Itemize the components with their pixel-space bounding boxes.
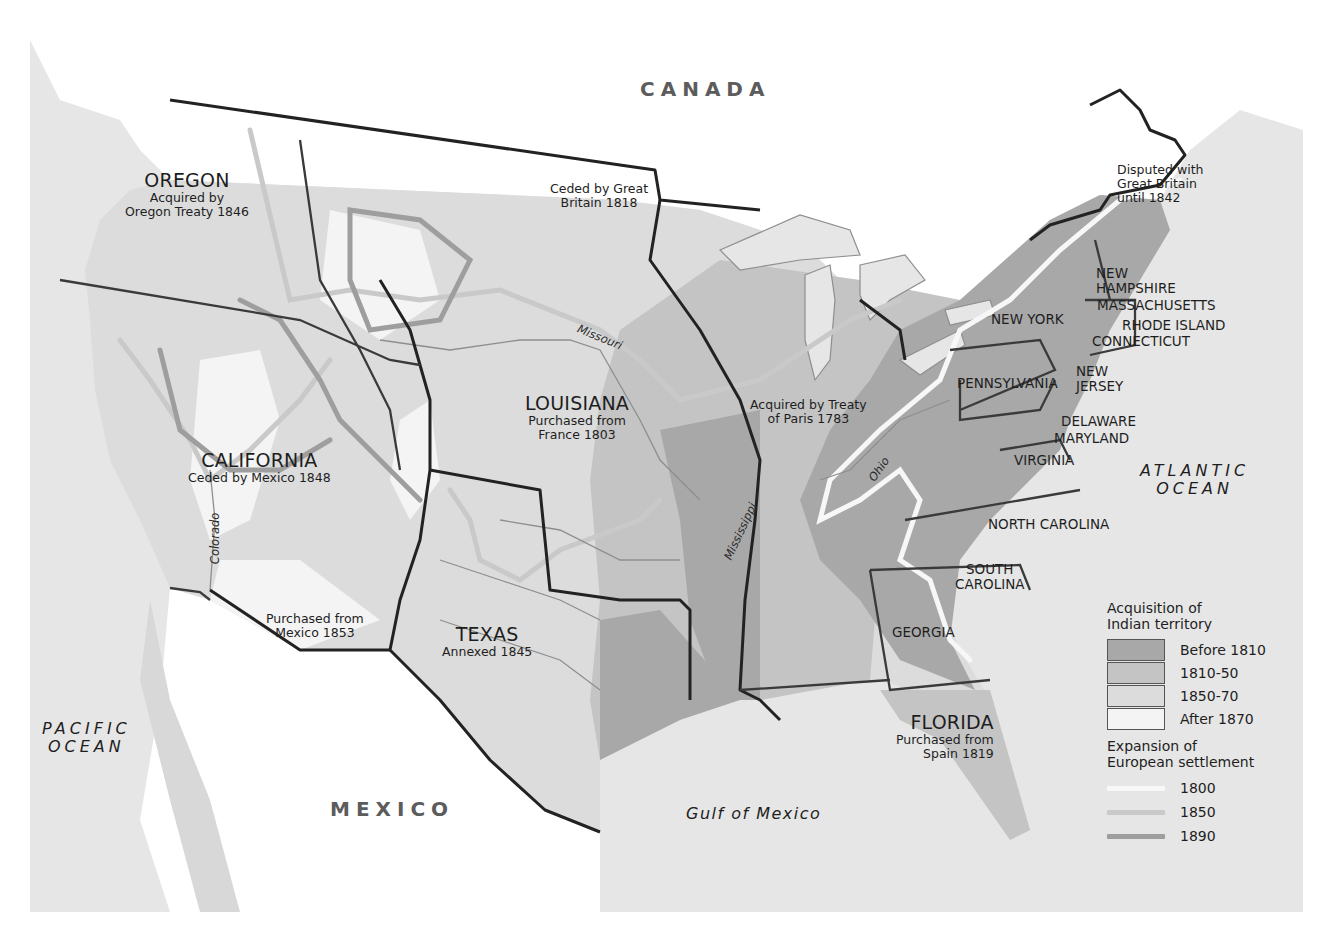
label-atlantic-ocean: ATLANTIC OCEAN — [1140, 462, 1249, 498]
atlantic-line2: OCEAN — [1140, 480, 1249, 498]
new-jersey-2: JERSEY — [1076, 379, 1123, 394]
legend-label: Before 1810 — [1180, 642, 1266, 658]
legend-item-1850: 1850 — [1107, 800, 1297, 824]
texas-name: TEXAS — [442, 624, 532, 645]
legend-item-1810-50: 1810-50 — [1107, 661, 1297, 684]
map-canvas: CANADA MEXICO PACIFIC OCEAN ATLANTIC OCE… — [30, 40, 1303, 912]
label-new-hampshire: NEW HAMPSHIRE — [1096, 266, 1176, 296]
legend-label: 1800 — [1180, 780, 1216, 796]
legend-acq-title-1: Acquisition of — [1107, 600, 1297, 616]
map-legend: Acquisition of Indian territory Before 1… — [1107, 600, 1297, 848]
swatch-before-1810 — [1107, 639, 1165, 661]
label-louisiana: LOUISIANA Purchased from France 1803 — [525, 393, 629, 442]
new-hampshire-1: NEW — [1096, 266, 1176, 281]
legend-label: 1850-70 — [1180, 688, 1239, 704]
california-note: Ceded by Mexico 1848 — [188, 471, 331, 485]
label-florida: FLORIDA Purchased from Spain 1819 — [896, 712, 994, 761]
atlantic-line1: ATLANTIC — [1140, 462, 1249, 480]
oregon-note-2: Oregon Treaty 1846 — [125, 205, 249, 219]
south-carolina-1: SOUTH — [955, 562, 1025, 577]
oregon-note-1: Acquired by — [125, 191, 249, 205]
label-california: CALIFORNIA Ceded by Mexico 1848 — [188, 450, 331, 485]
louisiana-note-2: France 1803 — [525, 428, 629, 442]
legend-item-1890: 1890 — [1107, 824, 1297, 848]
label-rhode-island: RHODE ISLAND — [1122, 318, 1226, 333]
label-massachusetts: MASSACHUSETTS — [1097, 298, 1216, 313]
new-jersey-1: NEW — [1076, 364, 1123, 379]
legend-settlement-title: Expansion of European settlement — [1107, 738, 1297, 770]
legend-item-before-1810: Before 1810 — [1107, 638, 1297, 661]
pacific-line1: PACIFIC — [42, 720, 131, 738]
line-swatch-1850 — [1107, 810, 1165, 815]
legend-acq-title-2: Indian territory — [1107, 616, 1297, 632]
gadsden-note-1: Purchased from — [266, 612, 364, 626]
redriver-note-2: Britain 1818 — [550, 196, 648, 210]
legend-acquisition-title: Acquisition of Indian territory — [1107, 600, 1297, 632]
maine-note-3: until 1842 — [1117, 191, 1204, 205]
legend-label: 1890 — [1180, 828, 1216, 844]
label-connecticut: CONNECTICUT — [1092, 334, 1190, 349]
label-treaty-of-paris: Acquired by Treaty of Paris 1783 — [750, 398, 867, 426]
label-virginia: VIRGINIA — [1014, 453, 1074, 468]
maine-note-1: Disputed with — [1117, 163, 1204, 177]
label-new-york: NEW YORK — [991, 312, 1064, 327]
legend-set-title-2: European settlement — [1107, 754, 1297, 770]
redriver-note-1: Ceded by Great — [550, 182, 648, 196]
label-delaware: DELAWARE — [1061, 414, 1136, 429]
label-red-river-cession: Ceded by Great Britain 1818 — [550, 182, 648, 210]
label-new-jersey: NEW JERSEY — [1076, 364, 1123, 394]
paris-note-2: of Paris 1783 — [750, 412, 867, 426]
label-maryland: MARYLAND — [1054, 431, 1129, 446]
louisiana-name: LOUISIANA — [525, 393, 629, 414]
oregon-name: OREGON — [125, 170, 249, 191]
legend-item-1800: 1800 — [1107, 776, 1297, 800]
label-georgia: GEORGIA — [892, 625, 955, 640]
florida-name: FLORIDA — [896, 712, 994, 733]
label-maine-dispute: Disputed with Great Britain until 1842 — [1117, 163, 1204, 205]
legend-item-after-1870: After 1870 — [1107, 707, 1297, 730]
legend-item-1850-70: 1850-70 — [1107, 684, 1297, 707]
label-mexico: MEXICO — [330, 798, 454, 820]
south-carolina-2: CAROLINA — [955, 577, 1025, 592]
legend-set-title-1: Expansion of — [1107, 738, 1297, 754]
swatch-1850-70 — [1107, 685, 1165, 707]
louisiana-note-1: Purchased from — [525, 414, 629, 428]
label-pacific-ocean: PACIFIC OCEAN — [42, 720, 131, 756]
maine-note-2: Great Britain — [1117, 177, 1204, 191]
new-hampshire-2: HAMPSHIRE — [1096, 281, 1176, 296]
legend-label: 1810-50 — [1180, 665, 1239, 681]
line-swatch-1800 — [1107, 786, 1165, 791]
line-swatch-1890 — [1107, 834, 1165, 839]
label-texas: TEXAS Annexed 1845 — [442, 624, 532, 659]
swatch-1810-50 — [1107, 662, 1165, 684]
label-oregon: OREGON Acquired by Oregon Treaty 1846 — [125, 170, 249, 219]
legend-label: 1850 — [1180, 804, 1216, 820]
label-gulf-of-mexico: Gulf of Mexico — [686, 805, 821, 823]
texas-note: Annexed 1845 — [442, 645, 532, 659]
florida-note-2: Spain 1819 — [896, 747, 994, 761]
label-pennsylvania: PENNSYLVANIA — [957, 376, 1058, 391]
paris-note-1: Acquired by Treaty — [750, 398, 867, 412]
label-canada: CANADA — [640, 78, 770, 100]
label-river-colorado: Colorado — [209, 513, 222, 564]
pacific-line2: OCEAN — [42, 738, 131, 756]
label-gadsden-purchase: Purchased from Mexico 1853 — [266, 612, 364, 640]
gadsden-note-2: Mexico 1853 — [266, 626, 364, 640]
legend-label: After 1870 — [1180, 711, 1254, 727]
label-north-carolina: NORTH CAROLINA — [988, 517, 1109, 532]
swatch-after-1870 — [1107, 708, 1165, 730]
label-south-carolina: SOUTH CAROLINA — [955, 562, 1025, 592]
florida-note-1: Purchased from — [896, 733, 994, 747]
california-name: CALIFORNIA — [188, 450, 331, 471]
